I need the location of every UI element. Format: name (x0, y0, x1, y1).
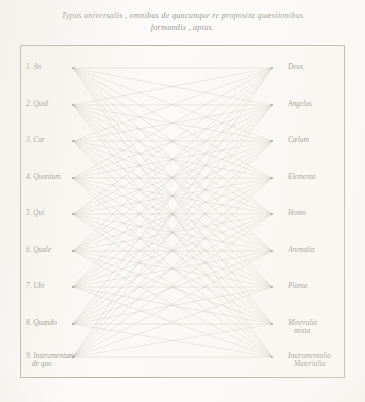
node-label-text: Planta (288, 281, 307, 290)
left-node-label-7: 7. Ubi (26, 282, 44, 290)
node-label-text: Angelus (288, 99, 312, 108)
node-label-text: 8. Quando (26, 318, 57, 327)
left-node-label-1: 1. An (26, 63, 41, 71)
left-node-label-9: 9. Instrumentumde quo (26, 352, 74, 369)
left-node-label-4: 4. Quantum (26, 173, 60, 181)
left-node-label-2: 2. Quid (26, 100, 48, 108)
left-node-label-6: 6. Quale (26, 246, 51, 254)
right-node-label-2: Angelus (288, 100, 312, 108)
right-node-label-6: Animalia (288, 246, 315, 254)
node-vertex (271, 140, 273, 142)
right-node-label-7: Planta (288, 282, 307, 290)
node-vertex (271, 177, 273, 179)
node-vertex (271, 356, 273, 358)
node-label-text: 1. An (26, 62, 41, 71)
right-node-label-1: Deus (288, 63, 303, 71)
node-vertex (72, 177, 74, 179)
node-vertex (271, 213, 273, 215)
node-vertex (72, 67, 74, 69)
title-line-2: formandis , aptus. (0, 22, 365, 34)
node-label-text: 7. Ubi (26, 281, 44, 290)
right-node-label-3: Cælum (288, 136, 309, 144)
node-label-text: Animalia (288, 245, 315, 254)
node-label-text: Deus (288, 62, 303, 71)
edge-group (73, 68, 272, 357)
node-label-text: 3. Cur (26, 135, 45, 144)
node-label-subtext: de quo (26, 360, 74, 368)
right-node-label-5: Homo (288, 209, 306, 217)
plate-title: Typus universalis , omnibus de quacunque… (0, 10, 365, 33)
node-label-text: Cælum (288, 135, 309, 144)
node-label-subtext: Materialia (288, 360, 331, 368)
node-vertex (72, 323, 74, 325)
node-vertex (271, 67, 273, 69)
node-vertex (72, 286, 74, 288)
node-vertex (72, 104, 74, 106)
node-label-text: Elementa (288, 172, 316, 181)
left-node-label-3: 3. Cur (26, 136, 45, 144)
node-vertex (72, 213, 74, 215)
node-label-subtext: mixta (288, 327, 317, 335)
node-label-text: 6. Quale (26, 245, 51, 254)
title-line-1: Typus universalis , omnibus de quacunque… (0, 10, 365, 22)
node-vertex (271, 250, 273, 252)
left-node-label-8: 8. Quando (26, 319, 57, 327)
right-node-label-4: Elementa (288, 173, 316, 181)
node-vertex (271, 104, 273, 106)
node-vertex (271, 286, 273, 288)
node-label-text: Homo (288, 208, 306, 217)
node-vertex (72, 140, 74, 142)
node-vertex (271, 323, 273, 325)
node-vertex (72, 250, 74, 252)
right-node-label-9: InstrumentaliaMaterialia (288, 352, 331, 369)
engraving-plate: Typus universalis , omnibus de quacunque… (0, 0, 365, 402)
right-node-label-8: Mineraliamixta (288, 319, 317, 336)
left-node-label-5: 5. Qui (26, 209, 44, 217)
node-label-text: 4. Quantum (26, 172, 60, 181)
node-label-text: 2. Quid (26, 99, 48, 108)
node-label-text: 5. Qui (26, 208, 44, 217)
